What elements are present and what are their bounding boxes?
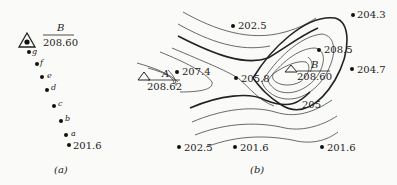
point-201-6-label: 201.6	[73, 140, 102, 151]
station-b-name: B	[310, 59, 318, 70]
spot-height-207-4: 207.4	[182, 66, 211, 77]
point-201-6-dot	[67, 143, 71, 147]
station-a-elevation: 208.62	[147, 81, 182, 92]
contour-line	[206, 132, 338, 147]
panel-a-caption: (a)	[54, 164, 68, 175]
point-a-label: a	[71, 129, 76, 138]
spot-height-201-6-left: 201.6	[240, 142, 269, 153]
point-g-dot	[27, 50, 31, 54]
control-point-triangle-icon	[19, 33, 35, 47]
point-e-dot	[40, 75, 44, 79]
panel-a: B 208.60 g f e d c b a 201.6 (a)	[19, 22, 102, 175]
contour-line	[262, 34, 334, 99]
point-c-dot	[52, 104, 56, 108]
point-c-label: c	[58, 99, 63, 108]
contour-label-205: 205	[302, 99, 321, 110]
spot-height-204-7: 204.7	[357, 64, 386, 75]
spot-height-202-5-top: 202.5	[238, 20, 267, 31]
spot-height-dot	[231, 24, 235, 28]
station-b-elevation: 208.60	[297, 71, 332, 82]
spot-height-dot	[350, 67, 354, 71]
point-a-dot	[64, 133, 68, 137]
point-e-label: e	[47, 71, 52, 80]
control-point-a-triangle-icon	[138, 72, 150, 80]
spot-height-dot	[320, 145, 324, 149]
contour-line-index	[190, 92, 310, 108]
point-g-label: g	[32, 47, 37, 56]
station-b-elevation-a: 208.60	[43, 37, 78, 48]
spot-height-dot	[351, 13, 355, 17]
station-a-name: A	[161, 68, 169, 79]
point-f-label: f	[39, 58, 45, 67]
point-b-dot	[59, 119, 63, 123]
spot-height-205-8: 205.8	[241, 73, 270, 84]
contour-line	[195, 116, 337, 135]
spot-height-201-6-right: 201.6	[327, 142, 356, 153]
contour-line-index	[253, 18, 347, 110]
figure-canvas: B 208.60 g f e d c b a 201.6 (a)	[0, 0, 397, 185]
point-d-label: d	[51, 83, 56, 92]
spot-height-208-5: 208.5	[324, 44, 353, 55]
spot-height-202-5-bottom: 202.5	[184, 142, 213, 153]
spot-height-dot	[233, 145, 237, 149]
spot-height-dot	[317, 48, 321, 52]
point-b-label: b	[65, 114, 70, 123]
point-d-dot	[45, 88, 49, 92]
point-f-dot	[35, 62, 39, 66]
spot-height-dot	[234, 76, 238, 80]
spot-height-dot	[175, 70, 179, 74]
spot-height-204-3: 204.3	[357, 9, 386, 20]
spot-height-dot	[177, 145, 181, 149]
station-b-name-a: B	[56, 22, 64, 33]
panel-b: 205 A 208.62 B 208.60 202.5 204.3 207.4 …	[137, 9, 386, 175]
panel-b-caption: (b)	[250, 164, 264, 175]
